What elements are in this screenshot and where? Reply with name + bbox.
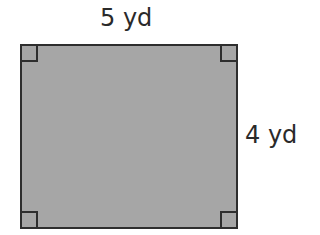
right-angle-marker-bottom-right bbox=[220, 211, 236, 227]
right-angle-marker-top-right bbox=[220, 46, 236, 62]
right-angle-marker-bottom-left bbox=[22, 211, 38, 227]
height-label: 4 yd bbox=[245, 123, 297, 147]
rectangle-shape bbox=[20, 44, 238, 229]
width-label: 5 yd bbox=[100, 6, 152, 30]
right-angle-marker-top-left bbox=[22, 46, 38, 62]
